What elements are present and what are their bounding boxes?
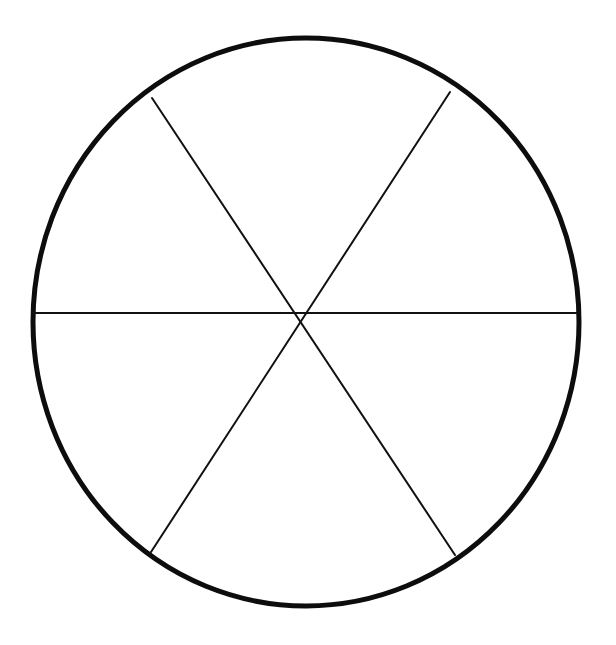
circle-sectors-diagram — [0, 0, 616, 645]
figure-canvas — [0, 0, 616, 645]
diagram-background — [0, 0, 616, 645]
